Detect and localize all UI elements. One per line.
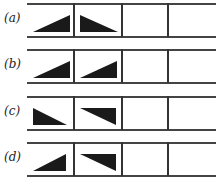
row-label: (c) <box>4 104 26 118</box>
cell-4-empty <box>168 144 216 175</box>
triangle-inverted-icon <box>74 144 121 175</box>
row-label: (a) <box>4 11 26 25</box>
row-label: (b) <box>4 57 26 71</box>
cell-4-empty <box>168 5 216 36</box>
cell-3-empty <box>122 51 167 82</box>
triangle-inverted-icon <box>74 98 121 129</box>
triangle-ascending-icon <box>27 5 73 36</box>
row-label: (d) <box>4 150 26 164</box>
cell-1 <box>27 5 73 36</box>
cell-3-empty <box>122 98 167 129</box>
cell-2 <box>74 144 121 175</box>
cell-3-empty <box>122 144 167 175</box>
row-b: (b) <box>0 49 222 83</box>
cell-2 <box>74 51 121 82</box>
cell-2 <box>74 98 121 129</box>
cell-3-empty <box>122 5 167 36</box>
triangle-ascending-icon <box>74 51 121 82</box>
triangle-ascending-icon <box>27 51 73 82</box>
row-c: (c) <box>0 96 222 130</box>
cell-1 <box>27 98 73 129</box>
triangle-descending-icon <box>27 98 73 129</box>
cell-4-empty <box>168 51 216 82</box>
cell-1 <box>27 51 73 82</box>
cell-2 <box>74 5 121 36</box>
triangle-ascending-icon <box>27 144 73 175</box>
row-d: (d) <box>0 142 222 176</box>
cell-4-empty <box>168 98 216 129</box>
cell-1 <box>27 144 73 175</box>
triangle-descending-icon <box>74 5 121 36</box>
row-a: (a) <box>0 3 222 37</box>
